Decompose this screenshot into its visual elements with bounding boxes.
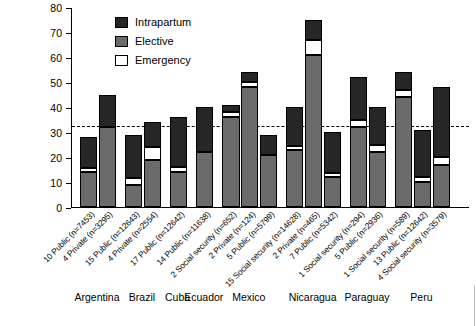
- bar-segment-intrapartum: [170, 117, 187, 167]
- y-axis-tick-mark: [66, 108, 71, 109]
- legend: Intrapartum Elective Emergency: [115, 14, 191, 71]
- x-axis-tick-labels: 10 Public (n=7453)4 Private (n=3295)15 P…: [71, 208, 469, 290]
- bar: [350, 77, 367, 207]
- bar: [395, 72, 412, 207]
- bar-segment-elective: [369, 152, 386, 207]
- legend-item-elective: Elective: [115, 33, 191, 50]
- group-label: Ecuador: [184, 291, 223, 303]
- bar-segment-emergency: [222, 112, 239, 117]
- bar-segment-elective: [395, 97, 412, 207]
- dark-square-swatch-icon: [115, 17, 128, 28]
- bar-segment-elective: [350, 127, 367, 207]
- bar-segment-intrapartum: [125, 135, 142, 179]
- frame-edge-divider: [474, 286, 475, 326]
- y-axis-tick-mark: [66, 33, 71, 34]
- bar-segment-emergency: [414, 177, 431, 182]
- y-axis-tick-mark: [66, 8, 71, 9]
- bar: [433, 87, 450, 207]
- y-axis-tick-label: 70: [0, 28, 62, 39]
- bar-segment-emergency: [125, 178, 142, 184]
- bar-segment-elective: [286, 150, 303, 208]
- group-label: Peru: [410, 291, 432, 303]
- y-axis-tick-label: 80: [0, 3, 62, 14]
- y-axis-tick-mark: [66, 83, 71, 84]
- bar-segment-intrapartum: [286, 107, 303, 146]
- group-label: Nicaragua: [289, 291, 337, 303]
- bar-segment-elective: [241, 87, 258, 207]
- group-label: Mexico: [232, 291, 265, 303]
- group-label: Paraguay: [345, 291, 390, 303]
- bar-segment-elective: [125, 185, 142, 208]
- bar-segment-emergency: [395, 90, 412, 98]
- white-square-swatch-icon: [115, 55, 128, 66]
- bar-segment-intrapartum: [196, 107, 213, 152]
- bar: [125, 135, 142, 208]
- bar-segment-emergency: [241, 82, 258, 87]
- bar-segment-elective: [170, 172, 187, 207]
- bar-segment-intrapartum: [222, 105, 239, 113]
- bar-segment-emergency: [369, 145, 386, 153]
- bar-segment-intrapartum: [80, 137, 97, 168]
- group-label: Argentina: [75, 291, 120, 303]
- y-axis-tick-mark: [66, 183, 71, 184]
- bar-segment-intrapartum: [260, 135, 277, 155]
- bar-segment-emergency: [305, 40, 322, 55]
- bar-segment-intrapartum: [324, 132, 341, 173]
- y-axis-tick-mark: [66, 58, 71, 59]
- bar-segment-intrapartum: [144, 122, 161, 147]
- bar-segment-elective: [260, 155, 277, 208]
- bar: [170, 117, 187, 207]
- group-label: Brazil: [129, 291, 155, 303]
- bar: [144, 122, 161, 207]
- bar-segment-elective: [99, 127, 116, 207]
- y-axis-tick-label: 50: [0, 78, 62, 89]
- bar-segment-elective: [433, 165, 450, 208]
- legend-item-label: Elective: [135, 36, 174, 47]
- bar-segment-elective: [144, 160, 161, 208]
- stacked-bar-chart: 01020304050607080 Intrapartum Elective E…: [0, 0, 476, 326]
- bar-segment-intrapartum: [395, 72, 412, 90]
- bar: [414, 130, 431, 208]
- bar-segment-emergency: [286, 146, 303, 150]
- bar: [80, 137, 97, 207]
- y-axis-tick-label: 60: [0, 53, 62, 64]
- bar: [222, 105, 239, 208]
- bar-segment-intrapartum: [414, 130, 431, 178]
- bar-segment-emergency: [144, 147, 161, 160]
- bar-segment-intrapartum: [369, 107, 386, 145]
- y-axis-tick-mark: [66, 158, 71, 159]
- y-axis-tick-mark: [66, 133, 71, 134]
- legend-item-emergency: Emergency: [115, 52, 191, 69]
- bar-segment-emergency: [324, 173, 341, 177]
- y-axis-tick-label: 20: [0, 153, 62, 164]
- bar-segment-emergency: [433, 157, 450, 165]
- bar: [99, 95, 116, 208]
- bar: [324, 132, 341, 207]
- legend-item-intrapartum: Intrapartum: [115, 14, 191, 31]
- bar-segment-elective: [324, 177, 341, 207]
- bar-segment-emergency: [350, 120, 367, 128]
- legend-item-label: Intrapartum: [135, 17, 191, 28]
- gray-square-swatch-icon: [115, 36, 128, 47]
- bar-segment-elective: [196, 152, 213, 207]
- y-axis-tick-label: 30: [0, 128, 62, 139]
- bar-segment-intrapartum: [305, 20, 322, 40]
- bar-segment-intrapartum: [433, 87, 450, 157]
- bar: [286, 107, 303, 207]
- bar-segment-elective: [222, 117, 239, 207]
- group-labels: ArgentinaBrazilCubaEcuadorMexicoNicaragu…: [0, 291, 476, 311]
- bar-segment-elective: [414, 182, 431, 207]
- bar-segment-intrapartum: [241, 72, 258, 82]
- bar: [369, 107, 386, 207]
- bar: [260, 135, 277, 208]
- y-axis-tick-label: 0: [0, 203, 62, 214]
- bar: [305, 20, 322, 208]
- bar-segment-intrapartum: [99, 95, 116, 128]
- bar-segment-elective: [305, 55, 322, 208]
- y-axis-tick-label: 10: [0, 178, 62, 189]
- legend-item-label: Emergency: [135, 55, 191, 66]
- bar: [196, 107, 213, 207]
- bar-segment-intrapartum: [350, 77, 367, 120]
- bar-segment-emergency: [80, 168, 97, 172]
- y-axis-tick-label: 40: [0, 103, 62, 114]
